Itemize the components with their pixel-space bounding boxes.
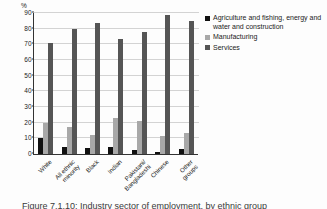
bar <box>48 43 53 154</box>
bar-group <box>108 13 123 154</box>
legend-item[interactable]: Agriculture and fishing, energy and wate… <box>205 14 325 31</box>
bar-group <box>179 13 194 154</box>
bar-chart-figure: % 0102030405060708090 WhiteAll ethnic mi… <box>0 0 327 209</box>
legend-item[interactable]: Services <box>205 44 325 53</box>
plot-area: 0102030405060708090 <box>33 13 198 155</box>
bar <box>142 32 147 154</box>
y-axis-tick-label: 80 <box>24 24 31 31</box>
dark-gray-swatch-icon <box>205 45 210 50</box>
figure-caption: Figure 7.1.10: Industry sector of employ… <box>22 201 322 209</box>
chart-legend: Agriculture and fishing, energy and wate… <box>205 14 325 54</box>
black-swatch-icon <box>205 16 210 21</box>
bar-group <box>155 13 170 154</box>
legend-item[interactable]: Manufacturing <box>205 33 325 42</box>
bar-group <box>62 13 77 154</box>
bar-group <box>38 13 53 154</box>
light-gray-swatch-icon <box>205 35 210 40</box>
plot-inner: 0102030405060708090 <box>34 13 198 154</box>
bar <box>72 29 77 154</box>
legend-label: Agriculture and fishing, energy and wate… <box>213 14 325 31</box>
y-axis-tick-label: 10 <box>24 134 31 141</box>
bar <box>189 21 194 154</box>
bar-group <box>85 13 100 154</box>
legend-label: Manufacturing <box>213 33 257 42</box>
y-axis-tick-label: 0 <box>28 150 32 157</box>
bar-groups <box>34 13 198 154</box>
bar <box>95 23 100 154</box>
legend-label: Services <box>213 44 240 53</box>
bar-group <box>132 13 147 154</box>
y-axis-tick-label: 50 <box>24 71 31 78</box>
bar <box>118 39 123 154</box>
y-axis-tick-label: 20 <box>24 118 31 125</box>
bar <box>165 15 170 154</box>
y-axis-tick-label: 30 <box>24 103 31 110</box>
y-axis-tick-label: 40 <box>24 87 31 94</box>
y-axis-tick-label: 70 <box>24 40 31 47</box>
y-axis-tick-label: 90 <box>24 9 31 16</box>
y-axis-tick-label: 60 <box>24 56 31 63</box>
